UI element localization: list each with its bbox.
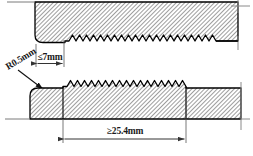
lower-jaw-body	[30, 81, 241, 120]
lower-jaw-group	[30, 81, 241, 120]
flat-land-width-dimension: ≤7mm	[36, 40, 64, 67]
upper-jaw-group	[35, 2, 238, 43]
corner-radius-leader-line	[18, 70, 43, 89]
engineering-drawing: ≤7mm R0.5mm ≥25.4mm	[0, 0, 253, 156]
technical-drawing-canvas: ≤7mm R0.5mm ≥25.4mm	[0, 0, 253, 156]
upper-jaw-body	[35, 2, 238, 43]
serration-length-label: ≥25.4mm	[107, 126, 144, 136]
flat-land-width-label: ≤7mm	[38, 52, 63, 62]
corner-radius-label: R0.5mm	[4, 46, 38, 72]
